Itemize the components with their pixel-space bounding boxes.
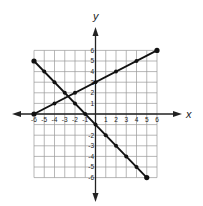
x-tick-label: 6 — [155, 116, 159, 123]
x-axis-label: x — [185, 108, 192, 120]
data-point — [83, 112, 87, 116]
axes — [12, 27, 182, 202]
data-point — [94, 123, 98, 127]
y-tick-label: -4 — [88, 153, 94, 160]
y-tick-label: -3 — [88, 142, 94, 149]
x-tick-label: 5 — [145, 116, 149, 123]
x-tick-label: -2 — [72, 116, 78, 123]
data-point — [94, 80, 98, 84]
x-tick-label: 1 — [104, 116, 108, 123]
y-tick-label: 5 — [90, 57, 94, 64]
line-2 — [31, 58, 149, 180]
data-point — [73, 91, 77, 95]
data-point — [135, 59, 139, 63]
y-tick-label: 1 — [90, 100, 94, 107]
y-tick-label: 2 — [90, 89, 94, 96]
arrow-left-icon — [12, 111, 21, 117]
data-point — [104, 133, 108, 137]
data-point — [144, 175, 149, 180]
y-tick-label: -6 — [88, 174, 94, 181]
y-tick-label: -5 — [88, 163, 94, 170]
data-point — [31, 111, 36, 116]
x-tick-label: 2 — [114, 116, 118, 123]
x-tick-label: 4 — [135, 116, 139, 123]
data-point — [154, 48, 159, 53]
data-point — [114, 70, 118, 74]
arrow-down-icon — [93, 193, 99, 202]
data-point — [63, 91, 67, 95]
coordinate-plane-chart: -6-5-4-3-2-1123456654321-2-3-4-5-6 x y — [0, 0, 203, 206]
data-point — [124, 154, 128, 158]
data-point — [135, 165, 139, 169]
arrow-right-icon — [173, 111, 182, 117]
x-tick-label: -6 — [31, 116, 37, 123]
data-point — [53, 101, 57, 105]
y-tick-label: 6 — [90, 47, 94, 54]
data-point — [31, 58, 36, 63]
x-tick-label: 3 — [124, 116, 128, 123]
data-point — [114, 144, 118, 148]
data-point — [73, 101, 77, 105]
data-point — [53, 80, 57, 84]
x-tick-label: -5 — [41, 116, 47, 123]
y-tick-label: -2 — [88, 132, 94, 139]
x-tick-label: -4 — [52, 116, 58, 123]
arrow-up-icon — [93, 27, 99, 36]
y-tick-label: 4 — [90, 68, 94, 75]
y-axis-label: y — [92, 10, 100, 22]
x-tick-label: -3 — [62, 116, 68, 123]
data-point — [42, 70, 46, 74]
